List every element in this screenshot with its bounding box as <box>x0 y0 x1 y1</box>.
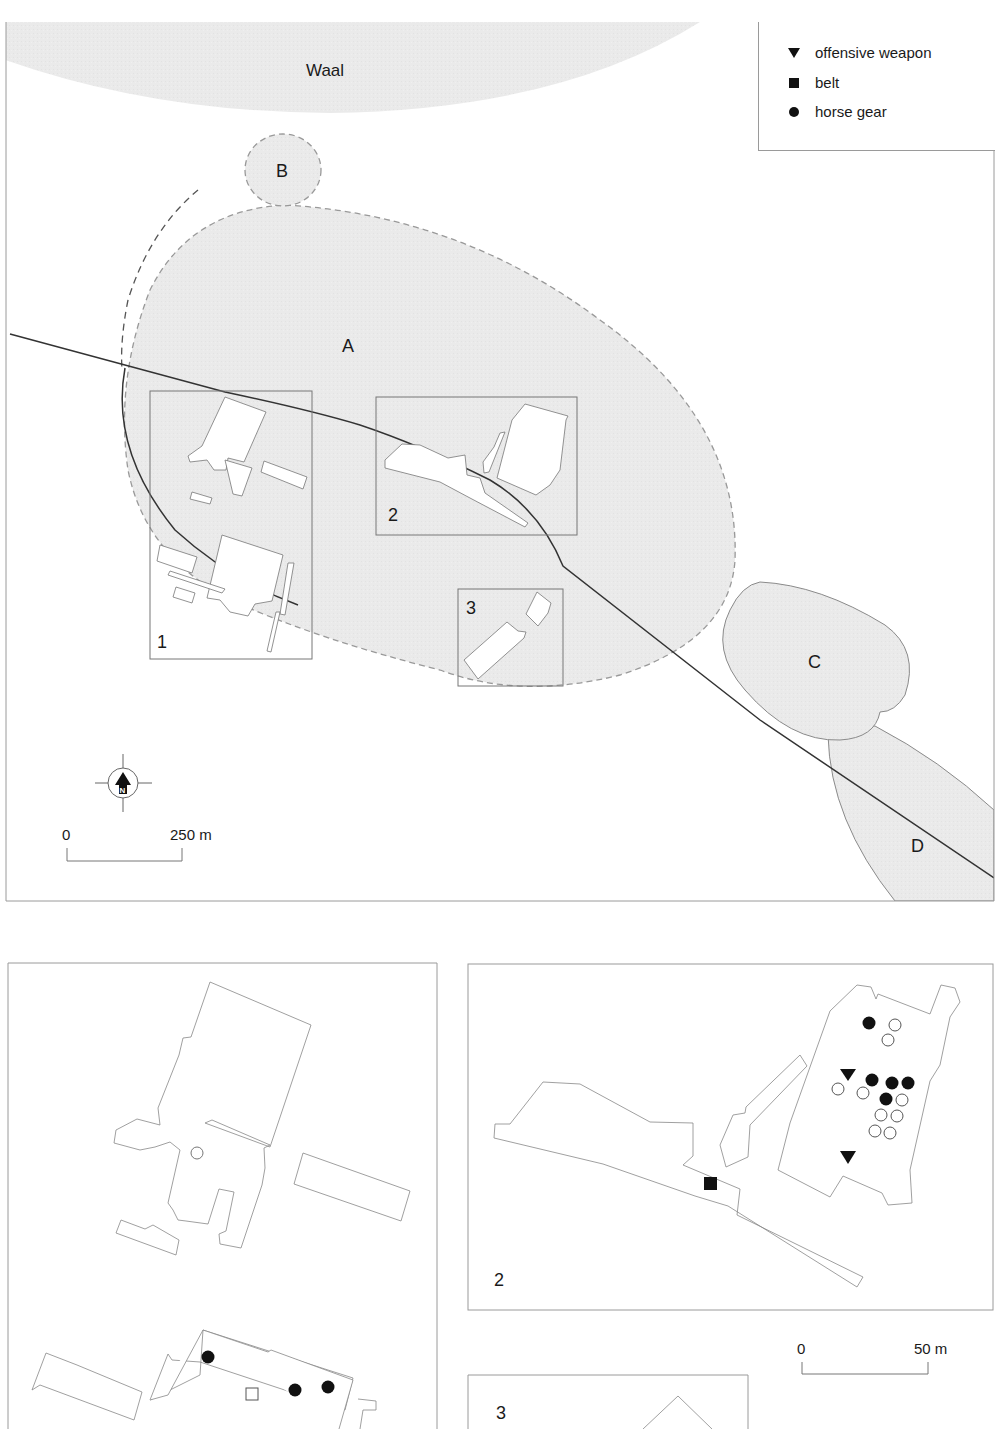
open-circle-marker <box>869 1125 881 1137</box>
svg-text:50 m: 50 m <box>914 1340 947 1357</box>
horse-gear-marker <box>289 1384 302 1397</box>
zone-c-label: C <box>808 652 821 672</box>
zone-d <box>828 726 994 901</box>
open-circle-marker <box>889 1019 901 1031</box>
horse-gear-marker <box>202 1351 215 1364</box>
triangle-down-icon <box>788 48 800 58</box>
horse-gear-marker <box>866 1074 879 1087</box>
zone-a-label: A <box>342 336 354 356</box>
legend-item-offensive-weapon: offensive weapon <box>787 44 931 61</box>
horse-gear-marker <box>322 1381 335 1394</box>
open-circle-marker <box>891 1110 903 1122</box>
horse-gear-marker <box>880 1093 893 1106</box>
zone-d-label: D <box>911 836 924 856</box>
scale-bar-overview: 0 250 m <box>62 826 212 861</box>
overview-map: 1 2 3 Waal A B C D N <box>0 22 994 901</box>
open-circle-marker <box>882 1034 894 1046</box>
legend-item-belt: belt <box>787 74 839 91</box>
panel-3-label: 3 <box>496 1403 506 1423</box>
river-waal <box>0 22 700 113</box>
detail-panel-1 <box>8 963 437 1429</box>
svg-text:0: 0 <box>62 826 70 843</box>
svg-text:0: 0 <box>797 1340 805 1357</box>
legend-item-horse-gear: horse gear <box>787 103 887 120</box>
circle-icon <box>789 107 799 117</box>
square-icon <box>789 78 799 88</box>
horse-gear-marker <box>886 1077 899 1090</box>
svg-text:N: N <box>120 786 126 795</box>
open-circle-marker <box>884 1127 896 1139</box>
detail-panel-2: 2 <box>468 964 993 1310</box>
legend: offensive weapon belt horse gear <box>758 22 995 151</box>
open-circle-marker <box>832 1083 844 1095</box>
inset-2-label: 2 <box>388 505 398 525</box>
detail-panel-3: 3 <box>468 1375 748 1429</box>
svg-text:250 m: 250 m <box>170 826 212 843</box>
panel-2-label: 2 <box>494 1270 504 1290</box>
open-circle-marker <box>857 1087 869 1099</box>
open-circle-marker <box>875 1109 887 1121</box>
belt-marker-open <box>246 1388 258 1400</box>
inset-3-label: 3 <box>466 598 476 618</box>
horse-gear-marker <box>902 1077 915 1090</box>
open-circle-marker <box>896 1094 908 1106</box>
horse-gear-marker <box>863 1017 876 1030</box>
river-label: Waal <box>306 61 344 80</box>
inset-1-label: 1 <box>157 632 167 652</box>
map-figure: 1 2 3 Waal A B C D N <box>0 0 1000 1429</box>
belt-marker <box>704 1177 717 1190</box>
north-arrow-icon: N <box>95 754 152 812</box>
scale-bar-detail: 0 50 m <box>797 1340 947 1374</box>
zone-b-label: B <box>276 161 288 181</box>
